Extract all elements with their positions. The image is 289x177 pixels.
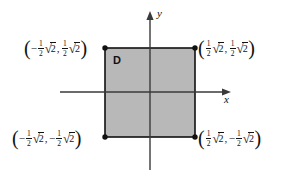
minus-sign: − <box>229 133 235 144</box>
fraction-numerator: 1 <box>56 130 62 138</box>
minus-sign: − <box>31 43 37 54</box>
paren-close: ) <box>248 40 255 57</box>
fraction-one-half: 1 2 <box>206 40 212 57</box>
x-axis-label: x <box>224 94 229 105</box>
y-axis-arrowhead <box>146 11 153 20</box>
fraction-one-half: 1 2 <box>206 130 212 147</box>
radical-icon: √ 2 <box>212 132 224 145</box>
fraction-numerator: 1 <box>236 130 242 138</box>
fraction-denominator: 2 <box>236 140 242 148</box>
fraction-denominator: 2 <box>38 50 44 58</box>
fraction-denominator: 2 <box>206 140 212 148</box>
fraction-one-half: 1 2 <box>56 130 62 147</box>
paren-open: ( <box>24 40 31 57</box>
fraction-one-half: 1 2 <box>62 40 68 57</box>
coord-comma: , <box>225 43 228 54</box>
coord-y-term: 1 2 √ 2 <box>229 40 248 57</box>
coord-y-term: − 1 2 √ 2 <box>229 130 255 147</box>
radical-icon: √ 2 <box>45 42 57 55</box>
radical-icon: √ 2 <box>212 42 224 55</box>
fraction-one-half: 1 2 <box>236 130 242 147</box>
fraction-numerator: 1 <box>26 130 32 138</box>
paren-open: ( <box>198 40 205 57</box>
coord-comma: , <box>225 133 228 144</box>
coordinate-label-top-left: ( − 1 2 √ 2 , 1 2 <box>24 40 87 57</box>
coordinate-label-bottom-right: ( 1 2 √ 2 , − 1 2 <box>198 130 261 147</box>
fraction-denominator: 2 <box>230 50 236 58</box>
corner-point-bottom-right <box>192 134 197 139</box>
fraction-one-half: 1 2 <box>26 130 32 147</box>
fraction-numerator: 1 <box>230 40 236 48</box>
fraction-denominator: 2 <box>56 140 62 148</box>
fraction-denominator: 2 <box>206 50 212 58</box>
region-label-d: D <box>113 55 121 66</box>
coord-comma: , <box>45 133 48 144</box>
paren-open: ( <box>198 130 205 147</box>
coord-x-term: 1 2 √ 2 <box>205 40 224 57</box>
fraction-denominator: 2 <box>26 140 32 148</box>
coordinate-label-top-right: ( 1 2 √ 2 , 1 2 <box>198 40 255 57</box>
coordinate-label-bottom-left: ( − 1 2 √ 2 , − 1 2 <box>12 130 81 147</box>
coord-x-term: 1 2 √ 2 <box>205 130 224 147</box>
corner-point-bottom-left <box>102 134 107 139</box>
coord-comma: , <box>57 43 60 54</box>
radical-icon: √ 2 <box>243 132 255 145</box>
paren-close: ) <box>254 130 261 147</box>
coordinate-plane-svg <box>0 0 289 177</box>
fraction-numerator: 1 <box>206 130 212 138</box>
corner-point-top-left <box>102 45 107 50</box>
radical-icon: √ 2 <box>69 42 81 55</box>
figure-canvas: D y x ( − 1 2 √ 2 , 1 <box>0 0 289 177</box>
coord-y-term: − 1 2 √ 2 <box>49 130 75 147</box>
fraction-one-half: 1 2 <box>38 40 44 57</box>
corner-point-top-right <box>192 45 197 50</box>
fraction-numerator: 1 <box>62 40 68 48</box>
paren-open: ( <box>12 130 19 147</box>
minus-sign: − <box>19 133 25 144</box>
fraction-numerator: 1 <box>38 40 44 48</box>
radical-icon: √ 2 <box>63 132 75 145</box>
coord-y-term: 1 2 √ 2 <box>61 40 80 57</box>
paren-close: ) <box>75 130 82 147</box>
radical-icon: √ 2 <box>33 132 45 145</box>
y-axis-label: y <box>157 8 162 19</box>
minus-sign: − <box>49 133 55 144</box>
fraction-denominator: 2 <box>62 50 68 58</box>
radical-icon: √ 2 <box>237 42 249 55</box>
coord-x-term: − 1 2 √ 2 <box>19 130 45 147</box>
fraction-one-half: 1 2 <box>230 40 236 57</box>
paren-close: ) <box>80 40 87 57</box>
fraction-numerator: 1 <box>206 40 212 48</box>
coord-x-term: − 1 2 √ 2 <box>31 40 57 57</box>
